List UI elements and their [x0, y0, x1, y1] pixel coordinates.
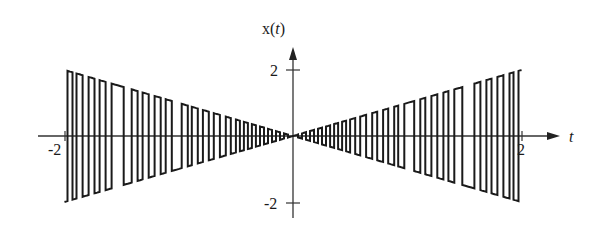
y-axis-label: x(t) — [262, 20, 285, 38]
y-tick-label-bottom: -2 — [264, 195, 277, 212]
x-axis-label: t — [569, 128, 574, 145]
x-axis-arrow-icon — [547, 132, 560, 140]
chart-canvas: x(t) t 2 -2 -2 2 — [0, 0, 602, 229]
y-tick-label-top: 2 — [270, 62, 278, 79]
x-tick-label-right: 2 — [517, 141, 525, 158]
y-axis-arrow-icon — [289, 47, 297, 60]
x-tick-label-left: -2 — [48, 141, 61, 158]
